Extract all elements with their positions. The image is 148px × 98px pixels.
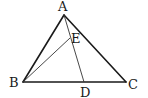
segment-ab — [23, 15, 64, 82]
label-c: C — [128, 77, 138, 92]
label-a: A — [57, 0, 68, 14]
label-b: B — [9, 75, 19, 90]
segment-ac — [64, 15, 126, 82]
geometry-diagram: A B C D E — [0, 0, 148, 98]
label-d: D — [80, 85, 90, 98]
label-e: E — [71, 31, 81, 46]
triangle-figure: A B C D E — [0, 0, 148, 98]
